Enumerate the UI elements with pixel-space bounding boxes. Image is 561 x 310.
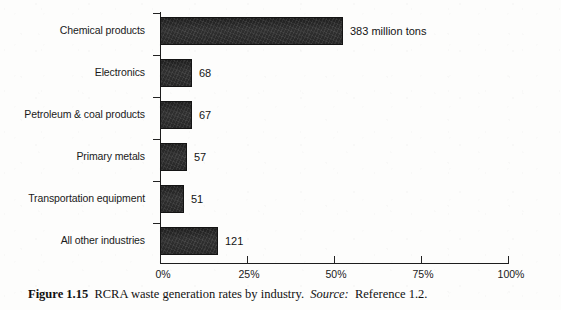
bar-value-all-other-industries: 121 bbox=[225, 235, 243, 247]
bar-value-petroleum-coal-products: 67 bbox=[199, 109, 211, 121]
y-axis-tick bbox=[153, 181, 160, 182]
bar-all-other-industries bbox=[160, 227, 218, 255]
caption-source-value: Reference 1.2. bbox=[355, 287, 428, 301]
category-label-petroleum-coal-products: Petroleum & coal products bbox=[0, 108, 145, 120]
figure-page: Chemical products Electronics Petroleum … bbox=[0, 0, 561, 310]
bar-primary-metals bbox=[160, 143, 187, 171]
bar-electronics bbox=[160, 59, 192, 87]
x-axis-tick bbox=[421, 256, 422, 264]
category-label-electronics: Electronics bbox=[0, 66, 145, 78]
x-axis-tick bbox=[247, 256, 248, 264]
x-axis-tick bbox=[334, 256, 335, 264]
bar-petroleum-coal-products bbox=[160, 101, 192, 129]
y-axis-tick bbox=[153, 139, 160, 140]
x-axis-tick bbox=[508, 256, 509, 264]
category-label-transportation-equipment: Transportation equipment bbox=[0, 192, 145, 204]
bar-chart: Chemical products Electronics Petroleum … bbox=[0, 0, 561, 282]
caption-body: RCRA waste generation rates by industry. bbox=[94, 287, 304, 301]
y-axis-tick bbox=[153, 13, 160, 14]
x-axis-tick bbox=[160, 256, 161, 264]
bar-value-primary-metals: 57 bbox=[194, 151, 206, 163]
bar-chemical-products bbox=[160, 17, 343, 45]
category-label-all-other-industries: All other industries bbox=[0, 234, 145, 246]
bar-value-chemical-products: 383 million tons bbox=[350, 25, 426, 37]
x-axis-label-50: 50% bbox=[325, 268, 346, 280]
x-axis-label-100: 100% bbox=[498, 268, 525, 280]
bar-transportation-equipment bbox=[160, 185, 184, 213]
y-axis-tick bbox=[153, 55, 160, 56]
category-label-primary-metals: Primary metals bbox=[0, 150, 145, 162]
x-axis-label-25: 25% bbox=[238, 268, 259, 280]
caption-figure-number: Figure 1.15 bbox=[28, 287, 88, 301]
y-axis-tick bbox=[153, 223, 160, 224]
caption-source-label: Source: bbox=[310, 287, 348, 301]
bar-value-electronics: 68 bbox=[199, 67, 211, 79]
figure-caption: Figure 1.15 RCRA waste generation rates … bbox=[28, 287, 548, 302]
x-axis-label-0: 0% bbox=[155, 268, 170, 280]
bar-value-transportation-equipment: 51 bbox=[191, 193, 203, 205]
y-axis-tick bbox=[153, 97, 160, 98]
category-label-chemical-products: Chemical products bbox=[0, 24, 145, 36]
x-axis-label-75: 75% bbox=[412, 268, 433, 280]
